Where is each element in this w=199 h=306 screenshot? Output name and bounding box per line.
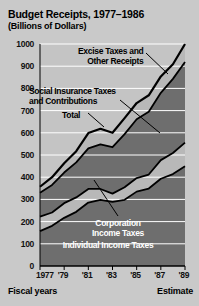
y-tick-label: 600 — [0, 128, 34, 138]
fiscal-years-label: Fiscal years — [8, 286, 57, 296]
annotation-excise-taxes: Excise Taxes and Other Receipts — [78, 46, 143, 66]
annotation-social-line1: Social Insurance Taxes — [29, 86, 116, 96]
x-tick-label: 1977 — [36, 270, 54, 280]
chart-page: Budget Receipts, 1977–1986 (Billions of … — [0, 0, 199, 306]
annotation-social-line2: and Contributions — [29, 96, 116, 106]
estimate-label: Estimate — [157, 286, 193, 296]
y-tick-label: 700 — [0, 106, 34, 116]
x-tick-label: '83 — [106, 270, 117, 280]
x-tick-label: '87 — [154, 270, 165, 280]
y-tick-label: 500 — [0, 150, 34, 160]
y-tick-label: 0 — [0, 261, 34, 271]
x-tick-label: '85 — [130, 270, 141, 280]
annotation-excise-line1: Excise Taxes and — [78, 46, 143, 56]
x-tick-label: '79 — [58, 270, 69, 280]
annotation-corporation-line1: Corporation — [76, 218, 160, 228]
annotation-individual-income-taxes: Individual Income Taxes — [46, 240, 170, 250]
annotation-social-insurance: Social Insurance Taxes and Contributions — [29, 86, 116, 106]
y-tick-label: 300 — [0, 194, 34, 204]
y-tick-label: 200 — [0, 217, 34, 227]
y-tick-label: 900 — [0, 61, 34, 71]
annotation-excise-line2: Other Receipts — [78, 56, 143, 66]
y-tick-label: 100 — [0, 239, 34, 249]
annotation-corporation-line2: Income Taxes — [76, 228, 160, 238]
annotation-corporation-income-taxes: Corporation Income Taxes — [76, 218, 160, 238]
y-tick-label: 400 — [0, 172, 34, 182]
x-tick-label: '81 — [82, 270, 93, 280]
annotation-total: Total — [62, 110, 80, 120]
y-tick-label: 1000 — [0, 39, 34, 49]
x-tick-label: '89 — [179, 270, 190, 280]
